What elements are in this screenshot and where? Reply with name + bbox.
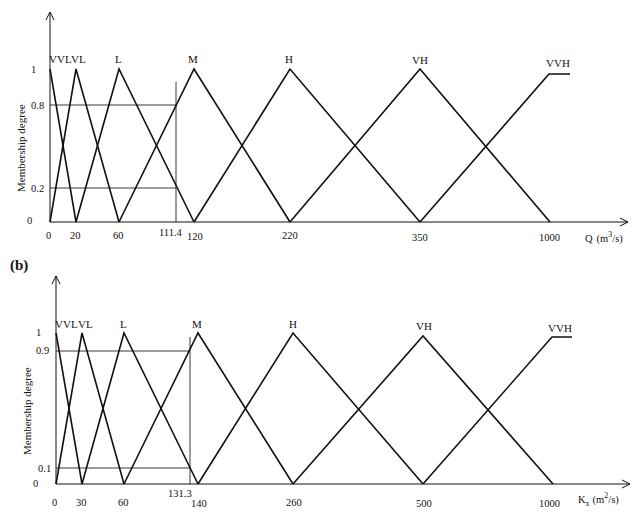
set-label-vvh: VVH	[546, 57, 570, 69]
mf-l-b	[82, 333, 198, 484]
mf-h-a	[194, 69, 420, 222]
mf-m-b	[124, 333, 293, 484]
set-label-l: L	[115, 53, 122, 65]
mf-m-a	[119, 69, 290, 222]
xtick-111-4: 111.4	[159, 227, 183, 238]
set-label-m: M	[192, 318, 202, 330]
figure: VVL VL L M H VH VVH 1 0.8 0.2 0 Membersh…	[0, 0, 639, 520]
set-label-vh: VH	[412, 54, 428, 66]
x-axis-label-a: Q(m3/s)	[585, 230, 623, 245]
y-axis-label-a: Membership degree	[15, 104, 27, 192]
ytick-0-2: 0.2	[31, 183, 44, 194]
set-label-h: H	[285, 53, 293, 65]
ytick-1: 1	[36, 327, 41, 338]
xtick-30: 30	[76, 497, 87, 508]
mf-vh-b	[293, 336, 553, 484]
mf-vh-a	[290, 69, 550, 222]
xtick-260: 260	[286, 497, 302, 508]
set-label-vvh: VVH	[548, 322, 572, 334]
set-label-vvl: VVL	[55, 318, 78, 330]
xtick-131-3: 131.3	[168, 488, 192, 499]
set-label-h: H	[289, 318, 297, 330]
xtick-120: 120	[187, 231, 203, 242]
xtick-0: 0	[52, 497, 57, 508]
ytick-0-1: 0.1	[38, 463, 51, 474]
chart-b: VVL VL L M H VH VVH 1 0.9 0.1 0 Membersh…	[21, 276, 630, 509]
xtick-350: 350	[412, 232, 428, 243]
xtick-60: 60	[113, 230, 124, 241]
xtick-140: 140	[191, 498, 207, 509]
xtick-500: 500	[416, 498, 432, 509]
ytick-0-9: 0.9	[36, 345, 49, 356]
xtick-0: 0	[46, 230, 51, 241]
ytick-0: 0	[33, 478, 38, 489]
set-label-vvl: VVL	[49, 53, 72, 65]
ytick-1: 1	[31, 64, 36, 75]
xtick-20: 20	[70, 230, 81, 241]
mf-vl-b	[56, 333, 124, 484]
xtick-1000: 1000	[539, 498, 560, 509]
set-label-vl: VL	[78, 318, 93, 330]
mf-vvh-b	[423, 337, 572, 484]
mf-h-b	[198, 333, 423, 484]
ytick-0: 0	[27, 215, 32, 226]
set-label-l: L	[120, 318, 127, 330]
set-label-vh: VH	[416, 320, 432, 332]
mf-vl-a	[50, 69, 119, 222]
x-axis-label-b: Kx(m2/s)	[578, 491, 619, 508]
y-axis-label-b: Membership degree	[21, 367, 33, 455]
set-label-m: M	[188, 53, 198, 65]
xtick-220: 220	[282, 230, 298, 241]
panel-label-b: (b)	[10, 257, 28, 274]
ytick-0-8: 0.8	[31, 100, 44, 111]
xtick-1000: 1000	[539, 232, 560, 243]
chart-a: VVL VL L M H VH VVH 1 0.8 0.2 0 Membersh…	[15, 12, 628, 245]
set-label-vl: VL	[71, 53, 86, 65]
xtick-60: 60	[118, 497, 129, 508]
